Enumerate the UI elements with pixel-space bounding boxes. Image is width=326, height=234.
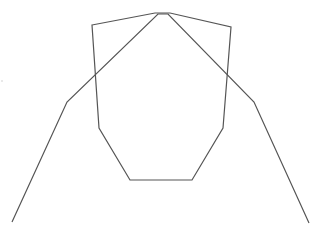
outer-arch-line bbox=[12, 14, 309, 223]
octagon-shape bbox=[92, 13, 231, 180]
diagram-svg bbox=[0, 0, 326, 234]
diagram-canvas bbox=[0, 0, 326, 234]
artifact-dot bbox=[1, 80, 3, 82]
